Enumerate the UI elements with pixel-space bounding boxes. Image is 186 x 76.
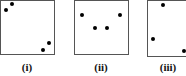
dot xyxy=(93,26,97,30)
dot xyxy=(151,37,155,41)
panel-label-ii: (ii) xyxy=(94,61,107,73)
dot xyxy=(4,8,8,12)
panel-label-iii: (iii) xyxy=(160,61,177,73)
panel-ii xyxy=(74,0,129,55)
dot xyxy=(105,26,109,30)
dot xyxy=(161,3,165,7)
panel-i xyxy=(0,0,55,55)
dot xyxy=(118,13,122,17)
dot xyxy=(182,49,186,53)
panel-iii xyxy=(147,0,186,57)
dot xyxy=(80,13,84,17)
dot xyxy=(41,48,45,52)
panel-label-i: (i) xyxy=(22,61,32,73)
dot xyxy=(10,2,14,6)
dot xyxy=(47,41,51,45)
